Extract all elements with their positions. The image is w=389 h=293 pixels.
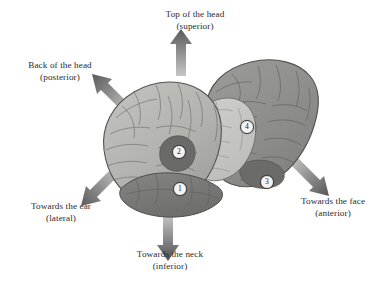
brain-region-marker-2[interactable]: 2 xyxy=(172,145,186,159)
arrow-superior xyxy=(170,29,192,76)
direction-label-posterior-line1: Back of the head xyxy=(28,60,92,70)
direction-label-superior: Top of the head (superior) xyxy=(132,9,258,32)
direction-label-anterior-line2: (anterior) xyxy=(278,208,388,220)
brain-region-marker-3[interactable]: 3 xyxy=(260,175,274,189)
direction-label-inferior: Towards the neck (inferior) xyxy=(104,249,236,272)
arrow-anterior xyxy=(290,157,329,196)
direction-label-superior-line1: Top of the head xyxy=(166,9,225,19)
direction-label-anterior-line1: Towards the face xyxy=(301,196,365,206)
direction-label-posterior-line2: (posterior) xyxy=(2,72,118,84)
brain-region-marker-1[interactable]: 1 xyxy=(173,182,187,196)
direction-label-inferior-line2: (inferior) xyxy=(104,261,236,273)
direction-label-inferior-line1: Towards the neck xyxy=(137,249,203,259)
direction-label-lateral: Towards the ear (lateral) xyxy=(2,201,120,224)
brain-orientation-diagram: 1 2 3 4 Top of the head (superior) Back … xyxy=(0,0,389,293)
direction-label-anterior: Towards the face (anterior) xyxy=(278,196,388,219)
brain-region-marker-4[interactable]: 4 xyxy=(240,120,254,134)
direction-label-lateral-line1: Towards the ear xyxy=(31,201,91,211)
direction-label-posterior: Back of the head (posterior) xyxy=(2,60,118,83)
direction-label-superior-line2: (superior) xyxy=(132,21,258,33)
direction-label-lateral-line2: (lateral) xyxy=(2,213,120,225)
